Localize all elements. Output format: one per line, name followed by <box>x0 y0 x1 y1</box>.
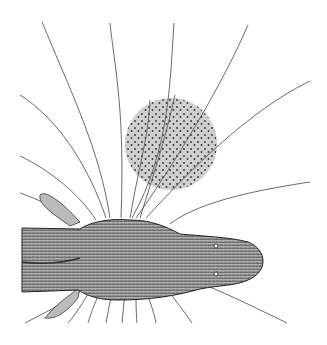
eye-icon <box>214 244 218 248</box>
eye-icon <box>214 272 218 276</box>
fish-body <box>22 219 263 300</box>
illustration-canvas: Electric fish with field lines <box>0 0 327 345</box>
electric-fish-diagram <box>0 0 327 345</box>
